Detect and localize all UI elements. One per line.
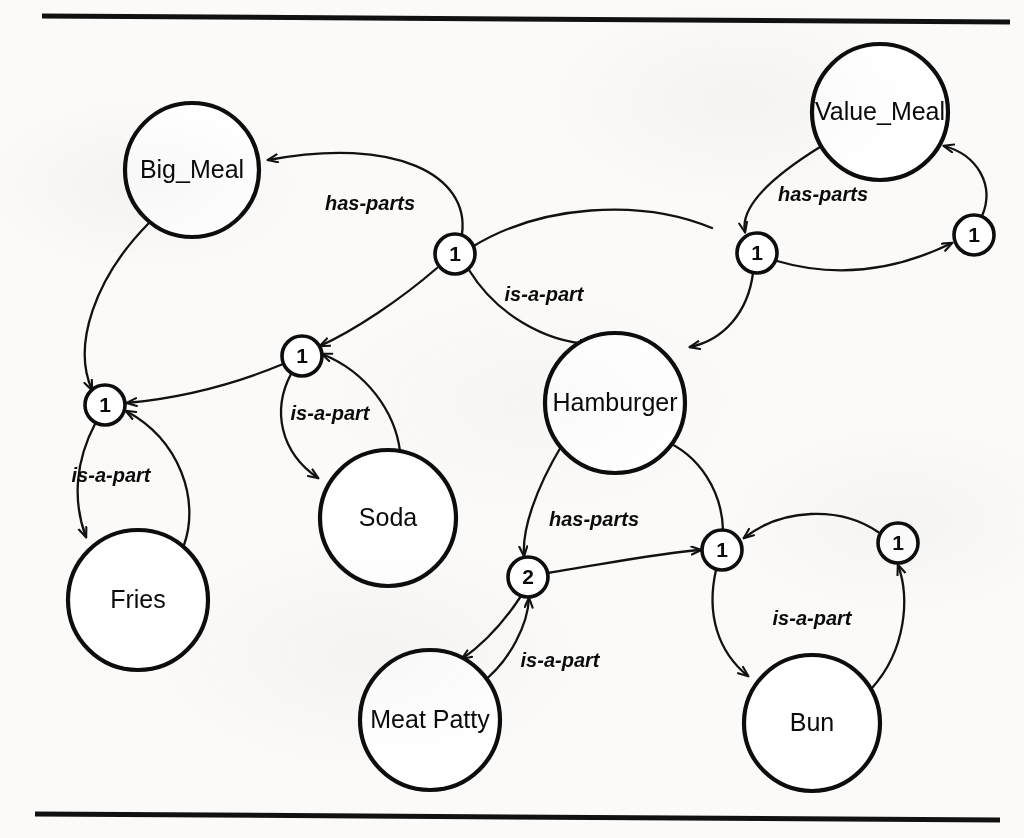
node-big-meal[interactable]: Big_Meal — [125, 103, 259, 237]
node-label-fries: Fries — [110, 585, 166, 613]
edge-label-meatpatty-isapart: is-a-part — [521, 649, 601, 671]
port-fries-cardinality[interactable]: 1 — [85, 385, 125, 425]
edge-port-soda-to-soda — [281, 374, 318, 478]
edge-port-right-to-port-bun — [744, 514, 878, 538]
edge-port-bun-to-bun — [713, 570, 748, 676]
node-label-hamburger: Hamburger — [552, 388, 677, 416]
port-label-soda: 1 — [296, 344, 308, 367]
port-label-bigmeal-hamburger: 1 — [449, 242, 461, 265]
part-of-graph-diagram: Big_Meal Value_Meal Hamburger Soda Fries… — [0, 0, 1024, 838]
edge-label-bun-isapart: is-a-part — [773, 607, 853, 629]
port-label-meatpatty: 2 — [522, 565, 534, 588]
edge-hamburger-hasparts-patty — [524, 445, 562, 556]
node-hamburger[interactable]: Hamburger — [545, 333, 685, 473]
node-label-soda: Soda — [359, 503, 417, 531]
edge-label-valuemeal-hasparts: has-parts — [778, 183, 868, 205]
node-value-meal[interactable]: Value_Meal — [812, 44, 948, 180]
port-bun-right-cardinality[interactable]: 1 — [878, 523, 918, 563]
port-label-fries: 1 — [99, 393, 111, 416]
edge-port-soda-to-port-fries — [127, 364, 283, 403]
edge-label-soda-isapart: is-a-part — [291, 402, 371, 424]
node-fries[interactable]: Fries — [68, 530, 208, 670]
node-label-bun: Bun — [790, 708, 834, 736]
edge-port-vm-to-hamburger — [690, 273, 753, 347]
edge-port-bun-to-hamburger — [663, 440, 723, 530]
edge-hamburger-to-port-bigmeal-arc — [472, 210, 712, 247]
node-meat-patty[interactable]: Meat Patty — [360, 650, 500, 790]
port-label-valuemeal-hamburger: 1 — [751, 241, 763, 264]
port-soda-cardinality[interactable]: 1 — [282, 336, 322, 376]
port-label-bun-right: 1 — [892, 531, 904, 554]
edge-port-patty-to-port-bun — [548, 550, 701, 573]
edge-bun-to-port-right — [872, 565, 904, 688]
edge-bigmeal-to-port-fries — [85, 224, 148, 390]
edge-port-vm-to-port-right — [777, 243, 952, 270]
edge-hamburger-isapart — [469, 270, 590, 344]
node-bun[interactable]: Bun — [744, 655, 880, 791]
node-label-meat-patty: Meat Patty — [370, 705, 490, 733]
edge-label-bigmeal-hasparts: has-parts — [325, 192, 415, 214]
edge-port-right-to-valuemeal — [944, 146, 986, 216]
port-valuemeal-right-cardinality[interactable]: 1 — [954, 215, 994, 255]
port-label-valuemeal-right: 1 — [968, 223, 980, 246]
edge-label-fries-isapart: is-a-part — [72, 464, 152, 486]
node-label-value-meal: Value_Meal — [815, 97, 945, 125]
port-valuemeal-hamburger-cardinality[interactable]: 1 — [737, 233, 777, 273]
node-soda[interactable]: Soda — [320, 450, 456, 586]
edge-port-hamb-to-port-soda — [320, 268, 437, 346]
top-rule — [42, 16, 1010, 22]
port-meatpatty-cardinality[interactable]: 2 — [508, 557, 548, 597]
port-bigmeal-hamburger-cardinality[interactable]: 1 — [435, 234, 475, 274]
port-bun-cardinality[interactable]: 1 — [702, 530, 742, 570]
edge-label-hamburger-hasparts: has-parts — [549, 508, 639, 530]
edge-label-hamburger-isapart: is-a-part — [505, 283, 585, 305]
bottom-rule — [35, 814, 1000, 820]
figure-page: Big_Meal Value_Meal Hamburger Soda Fries… — [0, 0, 1024, 838]
node-label-big-meal: Big_Meal — [140, 155, 244, 183]
port-label-bun: 1 — [716, 538, 728, 561]
